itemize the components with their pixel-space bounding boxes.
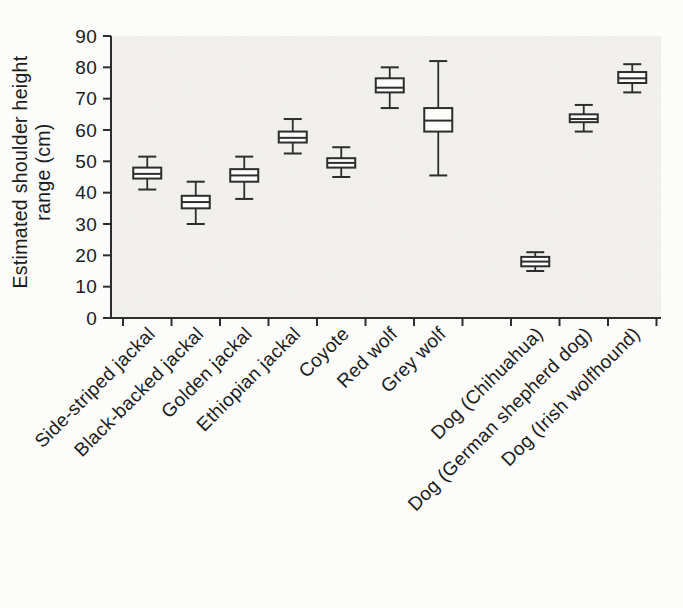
y-axis-title: Estimated shoulder heightrange (cm) bbox=[9, 55, 54, 288]
y-tick-label: 60 bbox=[75, 120, 97, 141]
y-tick-label: 30 bbox=[75, 214, 97, 235]
y-axis-ticks: 0102030405060708090 bbox=[75, 26, 111, 329]
svg-text:Estimated shoulder height: Estimated shoulder height bbox=[9, 55, 31, 288]
y-tick-label: 50 bbox=[75, 151, 97, 172]
y-tick-label: 10 bbox=[75, 276, 97, 297]
svg-text:range (cm): range (cm) bbox=[32, 123, 54, 220]
y-tick-label: 0 bbox=[86, 308, 97, 329]
scanned-boxplot-page: 0102030405060708090Side-striped jackalBl… bbox=[0, 0, 683, 608]
y-tick-label: 80 bbox=[75, 57, 97, 78]
shoulder-height-boxplot-figure: 0102030405060708090Side-striped jackalBl… bbox=[0, 0, 683, 608]
x-category-labels: Side-striped jackalBlack-backed jackalGo… bbox=[30, 323, 644, 515]
x-axis-ticks bbox=[123, 318, 657, 326]
y-tick-label: 40 bbox=[75, 182, 97, 203]
y-tick-label: 20 bbox=[75, 245, 97, 266]
boxplot-canvas: 0102030405060708090Side-striped jackalBl… bbox=[0, 0, 683, 608]
y-tick-label: 90 bbox=[75, 26, 97, 47]
y-tick-label: 70 bbox=[75, 88, 97, 109]
